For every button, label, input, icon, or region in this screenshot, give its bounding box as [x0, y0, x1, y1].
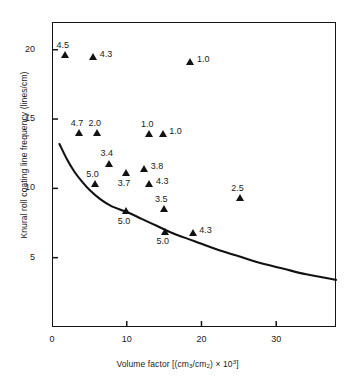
- data-point-marker: [186, 58, 194, 65]
- x-tick-label: 10: [107, 335, 147, 344]
- data-point-label: 1.0: [169, 127, 182, 136]
- x-tick-label: 0: [32, 335, 72, 344]
- data-point-label: 4.3: [100, 50, 113, 59]
- data-point-marker: [145, 130, 153, 137]
- data-point-marker: [89, 53, 97, 60]
- data-point-marker: [236, 194, 244, 201]
- y-axis-title: Knural roll coating line frequency (line…: [19, 35, 29, 275]
- data-point-marker: [122, 169, 130, 176]
- data-point-marker: [91, 180, 99, 187]
- data-point-label: 3.4: [101, 149, 114, 158]
- x-axis-title-close: ) × 10: [210, 359, 233, 369]
- data-point-marker: [93, 129, 101, 136]
- x-tick-label: 20: [181, 335, 221, 344]
- data-point-label: 4.7: [71, 119, 84, 128]
- x-axis-title-tail: ]: [236, 359, 238, 369]
- data-point-label: 3.8: [151, 162, 164, 171]
- y-tick-label: 5: [30, 253, 35, 262]
- data-point-label: 4.5: [56, 41, 69, 50]
- data-point-label: 4.3: [199, 226, 212, 235]
- data-point-label: 5.0: [118, 217, 131, 226]
- x-tick-label: 30: [256, 335, 296, 344]
- data-point-label: 3.7: [118, 179, 131, 188]
- data-point-label: 5.0: [157, 237, 170, 246]
- data-point-marker: [159, 130, 167, 137]
- data-point-marker: [105, 160, 113, 167]
- data-point-marker: [140, 165, 148, 172]
- data-point-label: 4.3: [156, 177, 169, 186]
- data-point-marker: [75, 129, 83, 136]
- x-axis-title-lead: Volume factor [(cm: [116, 359, 189, 369]
- data-point-marker: [160, 205, 168, 212]
- data-point-label: 5.0: [86, 170, 99, 179]
- data-point-marker: [145, 180, 153, 187]
- data-point-marker: [189, 229, 197, 236]
- data-point-label: 2.5: [231, 184, 244, 193]
- figure: 51015200102030 4.54.31.04.72.01.01.03.43…: [0, 0, 355, 384]
- data-point-marker: [122, 207, 130, 214]
- data-point-marker: [161, 228, 169, 235]
- x-axis-title-mid: /cm: [193, 359, 207, 369]
- data-point-label: 2.0: [89, 119, 102, 128]
- data-point-label: 1.0: [141, 120, 154, 129]
- data-point-marker: [61, 51, 69, 58]
- x-axis-title: Volume factor [(cm3/cm2) × 103]: [0, 358, 355, 369]
- data-point-label: 1.0: [197, 55, 210, 64]
- data-point-label: 3.5: [155, 195, 168, 204]
